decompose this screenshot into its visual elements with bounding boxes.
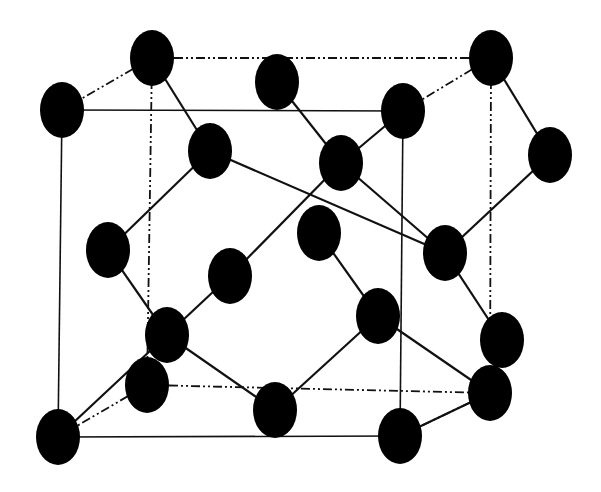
atom-a13 (356, 288, 400, 344)
atom-a10 (297, 205, 341, 261)
atom-a7 (319, 135, 363, 191)
atom-a8 (528, 127, 572, 183)
atom-a9 (86, 222, 130, 278)
atom-a6 (188, 123, 232, 179)
diamond-cubic-lattice-diagram (0, 0, 601, 492)
atom-a20 (378, 408, 422, 464)
atom-a1 (40, 82, 84, 138)
atom-a5 (381, 83, 425, 139)
atom-a12 (208, 248, 252, 304)
atom-a11 (423, 225, 467, 281)
atom-a15 (480, 312, 524, 368)
atom-a3 (255, 54, 299, 110)
atom-a2 (130, 30, 174, 86)
cube-edge-line (58, 436, 400, 437)
atom-a4 (469, 30, 513, 86)
atom-a17 (253, 382, 297, 438)
atom-a14 (145, 307, 189, 363)
atom-a19 (36, 409, 80, 465)
atom-a18 (468, 365, 512, 421)
atom-a16 (125, 357, 169, 413)
cube-edge-line (62, 110, 403, 111)
